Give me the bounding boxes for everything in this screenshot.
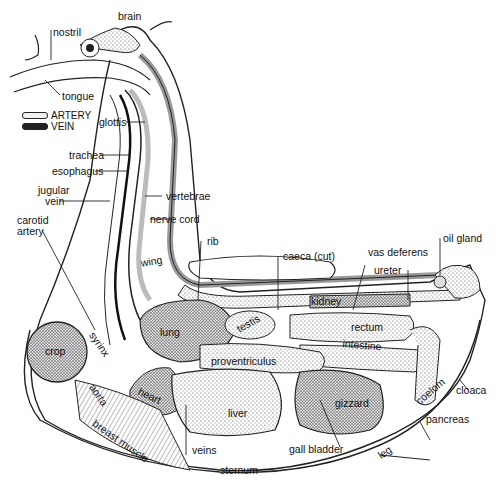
vein-swatch-icon <box>22 123 48 130</box>
label-brain: brain <box>118 11 141 22</box>
label-crop: crop <box>45 346 65 357</box>
label-pancreas: pancreas <box>426 414 469 425</box>
label-nostril: nostril <box>53 27 81 38</box>
label-esophagus: esophagus <box>52 166 103 177</box>
label-kidney: kidney <box>311 296 341 307</box>
label-liver: liver <box>228 408 247 419</box>
label-ureter: ureter <box>374 265 401 276</box>
label-vertebrae: vertebrae <box>166 191 210 202</box>
label-nerve-cord: nerve cord <box>150 214 200 225</box>
label-vein: vein <box>45 196 64 207</box>
label-sternum: sternum <box>220 465 258 476</box>
label-vas-deferens: vas deferens <box>368 247 428 258</box>
label-cloaca: cloaca <box>456 385 486 396</box>
label-tongue: tongue <box>62 91 94 102</box>
artery-swatch-icon <box>22 112 48 119</box>
label-artery: artery <box>17 226 44 237</box>
label-gizzard: gizzard <box>335 398 369 409</box>
label-lung: lung <box>160 327 180 338</box>
bird-anatomy-diagram: ARTERY VEIN brain nostril tongue glottis… <box>0 0 501 491</box>
label-rectum: rectum <box>351 322 383 333</box>
legend-item-artery: ARTERY <box>22 110 91 120</box>
label-glottis: glottis <box>99 117 126 128</box>
label-trachea: trachea <box>69 150 104 161</box>
label-gall-bladder: gall bladder <box>289 444 343 455</box>
label-proventriculus: proventriculus <box>211 356 276 367</box>
legend-item-vein: VEIN <box>22 121 91 131</box>
liver-shape <box>172 369 282 435</box>
legend: ARTERY VEIN <box>22 110 91 132</box>
label-oil-gland: oil gland <box>443 233 482 244</box>
label-veins: veins <box>192 445 217 456</box>
label-rib: rib <box>207 236 219 247</box>
label-caeca: caeca (cut) <box>283 251 335 262</box>
